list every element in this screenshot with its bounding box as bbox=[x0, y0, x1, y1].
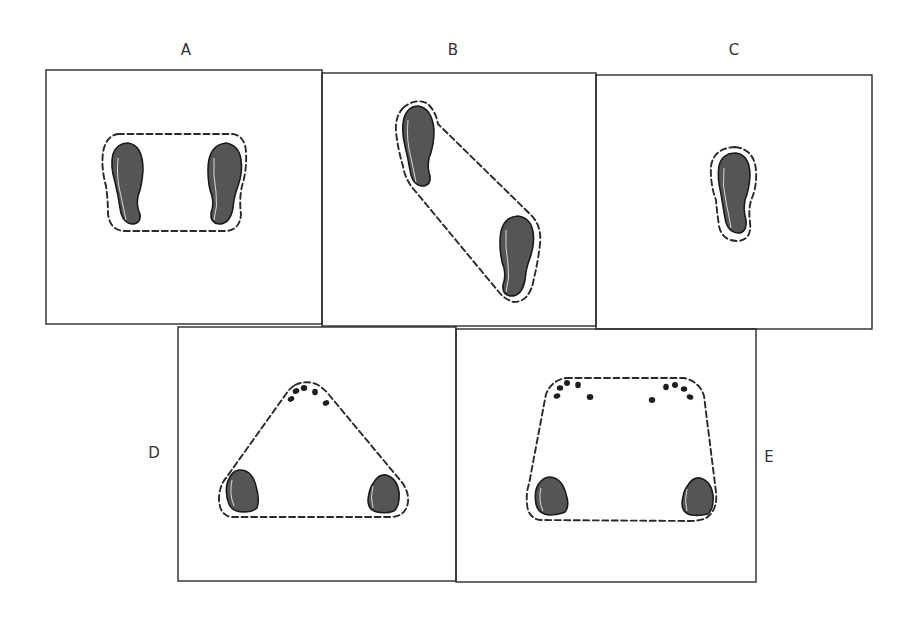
heel-right bbox=[682, 478, 713, 515]
panel-d bbox=[178, 327, 456, 581]
footprint-right bbox=[208, 143, 242, 224]
panel-d-frame bbox=[178, 327, 456, 581]
panel-label-a: A bbox=[181, 41, 192, 59]
panel-e bbox=[456, 329, 756, 582]
panel-a-frame bbox=[46, 70, 322, 324]
footprint-bottom bbox=[500, 216, 534, 296]
heel-left bbox=[226, 470, 258, 512]
panel-b-frame bbox=[322, 73, 596, 326]
panel-a bbox=[46, 70, 322, 324]
heel-left bbox=[535, 477, 567, 515]
hand-left-fingertips bbox=[553, 380, 593, 400]
footprint-single bbox=[718, 153, 750, 233]
panel-label-d: D bbox=[148, 444, 160, 462]
footprint-top bbox=[403, 106, 434, 186]
hand-right-fingertips bbox=[649, 382, 694, 403]
panel-label-e: E bbox=[764, 448, 773, 466]
base-of-support-diagram: A B C D E bbox=[0, 0, 908, 620]
panel-c bbox=[596, 75, 872, 329]
heel-right bbox=[368, 475, 399, 513]
panel-label-b: B bbox=[448, 41, 458, 59]
panel-b bbox=[322, 73, 596, 326]
footprint-left bbox=[112, 143, 143, 224]
panel-label-c: C bbox=[729, 41, 739, 59]
